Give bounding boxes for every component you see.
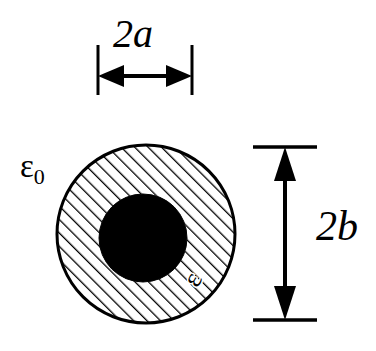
label-permittivity-free-space: ε0 — [20, 150, 45, 188]
coaxial-cross-section-svg — [0, 0, 376, 351]
diagram-canvas: 2a 2b ε0 ε — [0, 0, 376, 351]
inner-conductor-circle — [99, 194, 187, 282]
epsilon-symbol: ε — [20, 148, 34, 184]
epsilon-subscript: 0 — [34, 164, 45, 189]
label-outer-diameter: 2b — [316, 205, 358, 247]
label-inner-diameter: 2a — [113, 14, 153, 54]
